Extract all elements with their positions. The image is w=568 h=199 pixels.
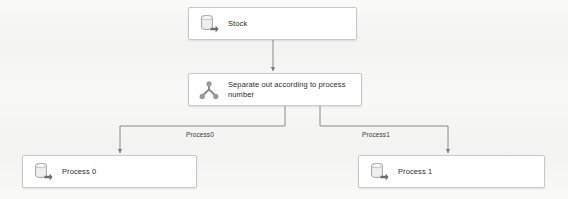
connector-separate-to-process0 (120, 106, 285, 153)
node-stock-label: Stock (228, 19, 356, 29)
edge-label-process0: Process0 (186, 131, 214, 138)
node-process1[interactable]: Process 1 (358, 155, 545, 188)
split-fork-icon (196, 77, 222, 103)
edge-label-process1: Process1 (362, 131, 390, 138)
node-process0[interactable]: Process 0 (22, 155, 197, 188)
node-process0-label: Process 0 (62, 167, 196, 177)
database-icon (30, 159, 56, 185)
node-process1-label: Process 1 (398, 167, 544, 177)
node-stock[interactable]: Stock (188, 7, 357, 40)
node-separate-label: Separate out according to process number (228, 80, 361, 100)
diagram-canvas: Stock Separate out according to process … (0, 0, 568, 199)
connector-separate-to-process1 (320, 106, 448, 153)
database-icon (196, 11, 222, 37)
node-separate[interactable]: Separate out according to process number (188, 73, 362, 106)
database-icon (366, 159, 392, 185)
